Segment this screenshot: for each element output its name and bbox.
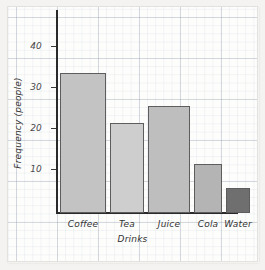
bar-chart-figure: 40 30 20 10 Coffee Tea Juice Cola Water … [0, 0, 265, 270]
plot-area: 40 30 20 10 Coffee Tea Juice Cola Water … [0, 0, 265, 270]
bar-water [226, 188, 250, 213]
bar-juice [148, 106, 190, 213]
bar-coffee [60, 73, 106, 213]
x-axis-title: Drinks [0, 234, 265, 244]
x-tick-label-juice: Juice [148, 219, 190, 229]
x-tick-label-coffee: Coffee [60, 219, 106, 229]
x-tick-label-cola: Cola [194, 219, 222, 229]
y-tick-mark-40 [51, 46, 56, 47]
y-tick-mark-30 [51, 87, 56, 88]
y-tick-mark-20 [51, 128, 56, 129]
y-axis-line [56, 10, 58, 214]
bar-cola [194, 164, 222, 213]
y-axis-title: Frequency (people) [13, 63, 23, 183]
y-tick-label-40: 40 [14, 41, 42, 51]
x-tick-label-water: Water [222, 219, 254, 229]
y-tick-mark-10 [51, 169, 56, 170]
bar-tea [110, 123, 144, 213]
x-tick-label-tea: Tea [110, 219, 144, 229]
